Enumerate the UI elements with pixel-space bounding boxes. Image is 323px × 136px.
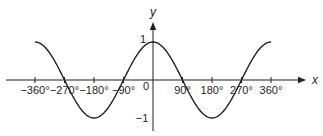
y-axis-arrow-icon: [150, 22, 156, 30]
x-tick-label: −180°: [79, 84, 108, 96]
x-axis-arrow-icon: [298, 77, 306, 83]
x-tick-label: −90°: [112, 84, 135, 96]
x-tick-label: −270°: [50, 84, 79, 96]
y-tick-label-1: 1: [140, 33, 146, 45]
origin-label: 0: [143, 80, 149, 92]
x-tick-label: 90°: [174, 84, 191, 96]
y-axis-label: y: [149, 5, 157, 19]
y-tick-label-minus-1: −1: [136, 112, 149, 124]
cosine-graph: −360°−270°−180°−90°90°180°270°360°1−10yx: [0, 0, 323, 136]
x-axis-label: x: [311, 73, 319, 87]
x-tick-label: 360°: [260, 84, 283, 96]
x-tick-label: 180°: [201, 84, 224, 96]
axis-labels: −360°−270°−180°−90°90°180°270°360°1−10yx: [20, 5, 319, 124]
x-tick-label: −360°: [20, 84, 49, 96]
axes: [6, 22, 306, 131]
x-tick-label: 270°: [230, 84, 253, 96]
